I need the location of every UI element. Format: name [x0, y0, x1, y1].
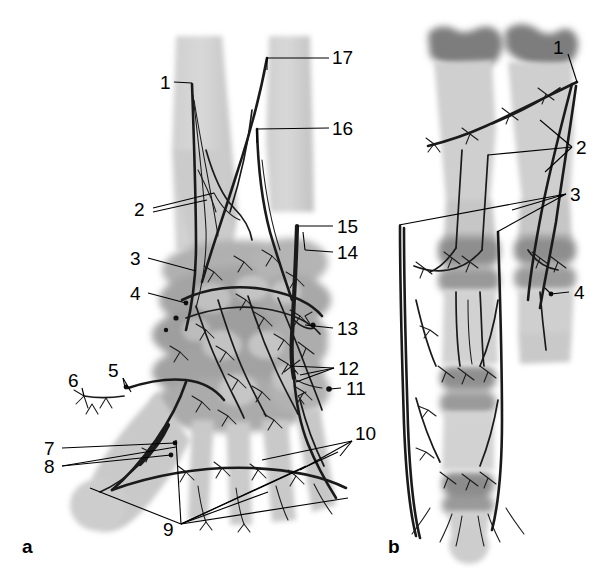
callout-a-14: 14	[337, 242, 359, 263]
callout-a-8: 8	[44, 456, 55, 477]
callout-b-4: 4	[574, 282, 585, 303]
marker-dot-aux	[164, 328, 168, 332]
callout-a-5: 5	[108, 360, 119, 381]
callout-a-11: 11	[346, 378, 366, 399]
callout-a-13: 13	[337, 318, 358, 339]
callout-a-12: 12	[338, 358, 359, 379]
figure-canvas: 1 2 3 4 5 6 7 8 9 10 11 12 13 14 15 16 1…	[0, 0, 610, 579]
marker-dot-13	[310, 322, 315, 327]
callout-b-1: 1	[553, 37, 564, 58]
callout-b-3: 3	[570, 184, 581, 205]
callout-a-17: 17	[332, 47, 353, 68]
panel-label-b: b	[388, 536, 400, 557]
panel-label-a: a	[22, 536, 33, 557]
callout-a-2: 2	[134, 199, 145, 220]
callout-a-15: 15	[337, 216, 358, 237]
anatomical-figure: 1 2 3 4 5 6 7 8 9 10 11 12 13 14 15 16 1…	[0, 0, 610, 579]
callout-b-2: 2	[576, 137, 587, 158]
callout-a-10: 10	[355, 423, 376, 444]
callout-a-16: 16	[332, 118, 353, 139]
callout-a-1: 1	[160, 72, 171, 93]
callout-a-4: 4	[130, 283, 141, 304]
marker-dot-4b	[173, 315, 178, 320]
callout-a-9: 9	[163, 519, 174, 540]
callout-a-6: 6	[68, 370, 79, 391]
callout-a-3: 3	[130, 248, 141, 269]
